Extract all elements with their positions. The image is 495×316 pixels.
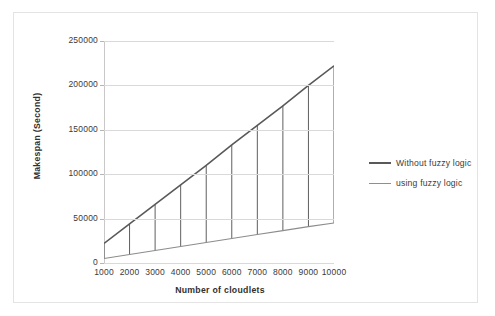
y-axis-tick — [100, 174, 104, 175]
gridline — [104, 263, 334, 264]
y-axis-tick — [100, 130, 104, 131]
x-axis-tick-label: 2000 — [120, 268, 140, 277]
y-axis-tick-label: 200000 — [46, 80, 98, 89]
gridline — [104, 85, 334, 86]
gridline — [104, 41, 334, 42]
legend-item-label: using fuzzy logic — [396, 178, 462, 188]
chart-legend: Without fuzzy logicusing fuzzy logic — [369, 153, 489, 193]
x-axis-tick-labels: 1000200030004000500060007000800090001000… — [104, 268, 336, 282]
x-axis-tick-label: 3000 — [145, 268, 165, 277]
chart-container: Makespan (Second) 0500001000001500002000… — [13, 12, 478, 303]
legend-item-label: Without fuzzy logic — [396, 158, 471, 168]
y-axis-tick — [100, 41, 104, 42]
y-axis-tick-label: 0 — [46, 258, 98, 267]
legend-color-swatch — [369, 162, 391, 164]
plot-area — [104, 41, 334, 263]
y-axis-tick — [100, 263, 104, 264]
y-axis-tick-label: 100000 — [46, 169, 98, 178]
x-axis-tick-label: 5000 — [196, 268, 216, 277]
vertical-drop-lines — [104, 66, 334, 259]
legend-color-swatch — [369, 183, 391, 184]
legend-item[interactable]: using fuzzy logic — [369, 173, 489, 193]
y-axis-tick-labels: 050000100000150000200000250000 — [40, 13, 98, 304]
y-axis-tick-label: 50000 — [46, 214, 98, 223]
x-axis-tick-label: 7000 — [247, 268, 267, 277]
y-axis-tick — [100, 219, 104, 220]
x-axis-title: Number of cloudlets — [94, 285, 346, 295]
x-axis-tick-label: 8000 — [273, 268, 293, 277]
x-axis-tick-label: 6000 — [222, 268, 242, 277]
x-axis-tick-label: 10000 — [322, 268, 347, 277]
y-axis-tick — [100, 85, 104, 86]
x-axis-tick-label: 1000 — [94, 268, 114, 277]
series-line-without-fuzzy-logic — [104, 66, 334, 244]
y-axis-tick-label: 150000 — [46, 125, 98, 134]
gridline — [104, 219, 334, 220]
y-axis-tick-label: 250000 — [46, 36, 98, 45]
series-lines — [104, 41, 334, 263]
gridline — [104, 130, 334, 131]
x-axis-tick-label: 9000 — [299, 268, 319, 277]
legend-item[interactable]: Without fuzzy logic — [369, 153, 489, 173]
gridline — [104, 174, 334, 175]
series-line-using-fuzzy-logic — [104, 223, 334, 259]
x-axis-tick-label: 4000 — [171, 268, 191, 277]
